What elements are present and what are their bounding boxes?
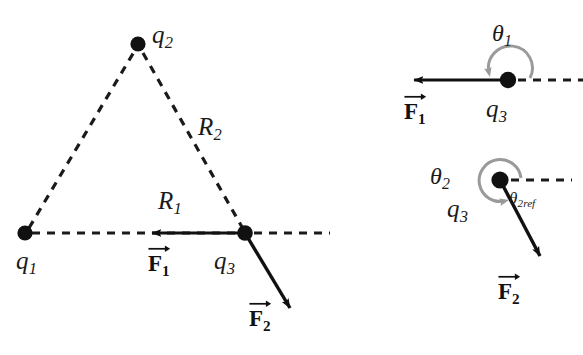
charge-label-q1: q1 [16,248,37,273]
force-label-F1-right: F1 [404,98,426,123]
distance-label-R1: R1 [158,188,182,213]
charge-label-q3-theta1: q3 [486,96,507,121]
force-label-F1-left: F1 [148,250,170,275]
charge-dot-q1 [17,225,32,240]
charge-label-q3: q3 [214,248,235,273]
physics-force-diagram: q2 q1 q3 R1 R2 F1 F2 θ1 q [0,0,583,355]
distance-label-R2: R2 [198,114,222,139]
charge-dot-q2 [130,36,145,51]
charge-dot-q3-theta1 [500,72,516,88]
charge-label-q2: q2 [152,22,173,47]
charge-dot-q3-theta2 [491,171,508,188]
theta1-panel-graphics [414,46,583,88]
angle-label-theta1: θ1 [492,21,512,45]
vector-F2-left [245,233,290,308]
force-label-F2-left: F2 [249,305,271,330]
charge-dot-q3 [237,225,253,241]
angle-label-theta2: θ2 [430,164,450,188]
diagram-canvas [0,0,583,355]
edge-q1-q2 [29,52,134,228]
angle-label-theta2ref: θ2ref [509,190,535,207]
force-label-F2-right: F2 [498,278,520,303]
charge-label-q3-theta2: q3 [447,196,468,221]
